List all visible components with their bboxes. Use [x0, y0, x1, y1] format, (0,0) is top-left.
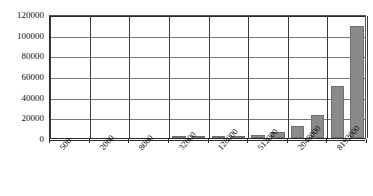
bars-layer [50, 16, 365, 138]
x-tick-mark [208, 139, 209, 143]
y-tick-label: 40000 [22, 93, 45, 102]
x-tick-mark [366, 139, 367, 143]
bar [331, 86, 344, 138]
y-tick-label: 120000 [17, 11, 44, 20]
x-tick-mark [247, 139, 248, 143]
x-tick-mark [287, 139, 288, 143]
x-tick-mark [89, 139, 90, 143]
y-axis-labels: 020000400006000080000100000120000 [0, 0, 46, 196]
x-tick-label: 8000 [137, 146, 144, 152]
bar-chart: 020000400006000080000100000120000 500200… [0, 0, 373, 196]
bar [350, 26, 363, 138]
x-tick-mark [168, 139, 169, 143]
x-axis-labels: 5002000800032000128000512000204800081920… [49, 144, 366, 196]
x-tick-label: 512000 [256, 146, 263, 152]
y-tick-label: 20000 [22, 114, 45, 123]
y-tick-label: 60000 [22, 73, 45, 82]
x-tick-label: 32000 [177, 146, 184, 152]
y-tick-label: 80000 [22, 52, 45, 61]
plot-area [49, 15, 366, 139]
x-tick-mark [49, 139, 50, 143]
x-tick-label: 2048000 [296, 146, 303, 152]
vertical-gridline [367, 16, 368, 138]
y-tick-label: 100000 [17, 31, 44, 40]
y-tick-label: 0 [40, 135, 45, 144]
x-tick-label: 8192000 [335, 146, 342, 152]
x-tick-label: 500 [58, 146, 65, 152]
x-tick-mark [128, 139, 129, 143]
x-tick-label: 128000 [216, 146, 223, 152]
x-tick-mark [326, 139, 327, 143]
x-tick-label: 2000 [98, 146, 105, 152]
